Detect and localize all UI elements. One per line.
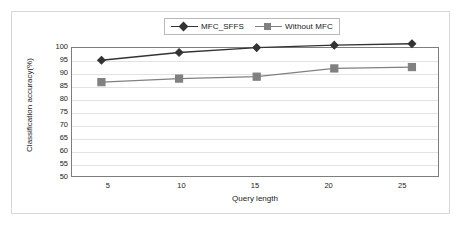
legend-entry-without-mfc[interactable]: Without MFC [255,22,333,31]
gridline [72,61,438,62]
y-axis-tick-label: 65 [46,134,68,142]
y-axis-tick-label: 80 [46,95,68,103]
y-axis-tick-label: 90 [46,69,68,77]
x-axis-tick-label: 25 [387,181,417,190]
x-axis-tick-label: 20 [314,181,344,190]
legend-swatch-diamond-icon [171,22,198,31]
x-axis-title: Query length [71,194,439,204]
gridline [72,100,438,101]
y-axis-tick-label: 85 [46,82,68,90]
y-axis-tick-label: 50 [46,173,68,181]
gridline [72,126,438,127]
x-axis-tick-label: 5 [93,181,123,190]
x-axis-tick-label: 10 [166,181,196,190]
y-axis-tick-label: 60 [46,147,68,155]
legend-label-without-mfc: Without MFC [285,22,333,31]
chart-figure: MFC_SFFS Without MFC 1009590858075706560… [11,11,450,214]
gridline [72,139,438,140]
chart-legend: MFC_SFFS Without MFC [164,18,340,35]
y-axis-tick-label: 100 [46,43,68,51]
y-axis-tick-label: 70 [46,121,68,129]
gridline [72,74,438,75]
gridline [72,87,438,88]
square-marker-icon [264,23,271,30]
x-axis-ticks: 510152025 [71,181,439,193]
y-axis-tick-label: 55 [46,160,68,168]
x-axis-tick-label: 15 [240,181,270,190]
gridline [72,152,438,153]
legend-label-mfc-sffs: MFC_SFFS [201,22,244,31]
gridlines [72,48,438,176]
legend-swatch-square-icon [255,22,282,31]
y-axis-tick-label: 75 [46,108,68,116]
plot-area [71,47,439,177]
y-axis-ticks: 10095908580757065605550 [42,47,68,177]
diamond-marker-icon [179,22,189,32]
y-axis-tick-label: 95 [46,56,68,64]
gridline [72,165,438,166]
legend-entry-mfc-sffs[interactable]: MFC_SFFS [171,22,244,31]
gridline [72,113,438,114]
y-axis-title: Classification accuracy(%) [25,40,35,170]
